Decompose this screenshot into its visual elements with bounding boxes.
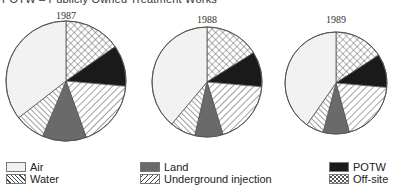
legend-item-air: Air <box>6 161 43 172</box>
legend-swatch-land <box>140 162 160 172</box>
legend-swatch-off-site <box>329 174 349 184</box>
legend-swatch-water <box>6 174 26 184</box>
legend-item-underground-injection: Underground injection <box>140 173 272 184</box>
legend-label-potw: POTW <box>353 161 386 173</box>
legend-label-land: Land <box>164 161 188 173</box>
legend-swatch-air <box>6 162 26 172</box>
pie-1989 <box>285 32 387 134</box>
legend-swatch-underground-injection <box>140 174 160 184</box>
legend-label-air: Air <box>30 161 43 173</box>
legend-label-water: Water <box>30 173 59 185</box>
legend-item-off-site: Off-site <box>329 173 388 184</box>
legend-label-underground-injection: Underground injection <box>164 173 272 185</box>
legend-item-water: Water <box>6 173 59 184</box>
legend-swatch-potw <box>329 162 349 172</box>
legend-item-potw: POTW <box>329 161 386 172</box>
legend-item-land: Land <box>140 161 188 172</box>
pie-1988 <box>152 27 262 137</box>
legend-label-off-site: Off-site <box>353 173 388 185</box>
pie-1987 <box>6 21 126 141</box>
